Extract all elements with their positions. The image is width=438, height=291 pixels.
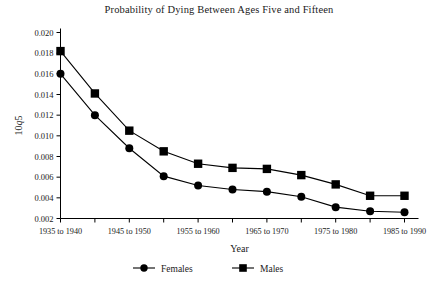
x-axis-label: Year — [230, 243, 249, 254]
legend-marker-circle — [140, 264, 147, 271]
series-males — [56, 47, 408, 200]
y-tick-label: 0.016 — [34, 69, 53, 79]
legend-label: Males — [260, 264, 284, 274]
y-axis-label: 10q5 — [13, 116, 24, 136]
data-point-square — [91, 89, 99, 97]
data-point-circle — [125, 144, 133, 152]
x-tick-label: 1985 to 1990 — [383, 227, 426, 236]
data-point-circle — [401, 208, 409, 216]
data-point-circle — [263, 188, 271, 196]
data-point-circle — [297, 193, 305, 201]
data-point-circle — [229, 186, 237, 194]
y-tick-label: 0.010 — [34, 131, 53, 141]
legend-entry-males: Males — [232, 264, 284, 274]
data-point-circle — [366, 207, 374, 215]
data-point-circle — [160, 172, 168, 180]
legend-entry-females: Females — [133, 264, 193, 274]
data-point-square — [160, 147, 168, 155]
y-tick-label: 0.006 — [34, 172, 53, 182]
data-point-circle — [332, 203, 340, 211]
x-tick-label: 1955 to 1960 — [176, 227, 219, 236]
data-point-square — [366, 192, 374, 200]
data-point-circle — [194, 181, 202, 189]
x-tick-label: 1975 to 1980 — [314, 227, 357, 236]
x-tick-label: 1945 to 1950 — [108, 227, 151, 236]
legend-label: Females — [161, 264, 193, 274]
y-tick-label: 0.002 — [34, 214, 53, 224]
y-tick-label: 0.004 — [34, 193, 54, 203]
x-tick-label: 1935 to 1940 — [39, 227, 82, 236]
data-point-square — [194, 160, 202, 168]
data-point-square — [332, 180, 340, 188]
chart-legend: FemalesMales — [133, 264, 284, 274]
y-tick-label: 0.014 — [34, 90, 54, 100]
y-tick-label: 0.020 — [34, 28, 53, 38]
data-point-square — [400, 192, 408, 200]
data-series-group — [56, 47, 408, 216]
series-line — [61, 51, 405, 196]
y-tick-label: 0.012 — [34, 110, 53, 120]
chart-plot-area: 1935 to 19401945 to 19501955 to 19601965… — [0, 0, 438, 291]
data-point-square — [297, 171, 305, 179]
data-point-square — [263, 165, 271, 173]
data-point-circle — [57, 70, 65, 78]
y-axis-ticks — [57, 33, 61, 219]
x-axis-tick-labels: 1935 to 19401945 to 19501955 to 19601965… — [39, 227, 426, 236]
legend-marker-square — [239, 264, 247, 272]
y-axis-tick-labels: 0.0020.0040.0060.0080.0100.0120.0140.016… — [34, 28, 54, 224]
x-axis-ticks — [61, 219, 405, 223]
data-point-square — [228, 164, 236, 172]
x-tick-label: 1965 to 1970 — [245, 227, 288, 236]
chart-figure: Probability of Dying Between Ages Five a… — [0, 0, 438, 291]
series-females — [57, 70, 409, 216]
y-tick-label: 0.008 — [34, 152, 53, 162]
y-tick-label: 0.018 — [34, 48, 53, 58]
data-point-circle — [91, 111, 99, 119]
data-point-square — [125, 126, 133, 134]
data-point-square — [56, 47, 64, 55]
